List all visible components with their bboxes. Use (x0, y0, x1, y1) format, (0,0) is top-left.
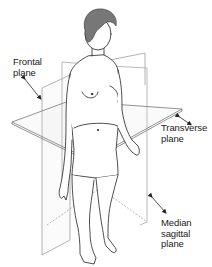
transverse-plane-label: Transverse plane (161, 123, 207, 144)
frontal-plane-label: Frontal plane (13, 57, 42, 78)
median-sagittal-plane-arrow (151, 196, 165, 212)
median-sagittal-plane-label: Median sagittal plane (161, 218, 192, 250)
human-figure (59, 18, 139, 264)
frontal-plane-arrow (24, 78, 40, 98)
